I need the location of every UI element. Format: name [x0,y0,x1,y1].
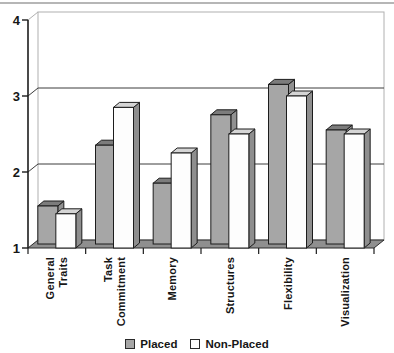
bar-non-placed-visualization [344,134,364,248]
bar-non-placed-general-traits-side [76,209,82,248]
category-label-general-traits-line1: General [44,257,56,299]
y-tick-label-4: 4 [13,13,21,28]
bar-non-placed-structures-side [249,129,255,248]
bar-placed-general-traits [38,206,58,244]
bar-placed-task-commitment [96,145,116,244]
left-wall [28,12,38,248]
legend-item-placed: Placed [125,338,177,350]
bar-non-placed-task-commitment-side [134,102,140,248]
bar3d-chart: 1234GeneralTraitsTaskCommitmentMemoryStr… [0,0,394,336]
legend-label-non-placed: Non-Placed [205,338,268,350]
category-label-memory: Memory [166,256,178,300]
y-tick-label-1: 1 [13,241,20,256]
bar-placed-structures [211,115,231,244]
category-label-visualization: Visualization [339,257,351,327]
bar-non-placed-general-traits [56,214,76,248]
bar-placed-flexibility [269,84,289,244]
chart-figure: 1234GeneralTraitsTaskCommitmentMemoryStr… [0,0,394,353]
bar-placed-visualization [326,130,346,244]
bar-non-placed-memory [171,153,191,248]
category-label-general-traits-line2: Traits [57,257,69,288]
bar-non-placed-visualization-side [364,129,370,248]
bar-non-placed-structures [229,134,249,248]
legend-swatch-non-placed [190,339,200,349]
chart-legend: Placed Non-Placed [0,336,394,352]
y-tick-label-3: 3 [13,89,20,104]
y-tick-label-2: 2 [13,165,20,180]
legend-label-placed: Placed [140,338,177,350]
legend-item-non-placed: Non-Placed [190,338,268,350]
bar-non-placed-flexibility-side [307,91,313,248]
bar-placed-memory [153,183,173,244]
bar-non-placed-flexibility [287,96,307,248]
bar-non-placed-memory-side [191,148,197,248]
category-label-task-commitment-line2: Commitment [115,257,127,326]
category-label-task-commitment-line1: Task [102,256,114,282]
category-label-structures: Structures [224,257,236,314]
legend-swatch-placed [125,339,135,349]
bar-non-placed-task-commitment [114,107,134,248]
category-label-flexibility: Flexibility [282,256,294,310]
